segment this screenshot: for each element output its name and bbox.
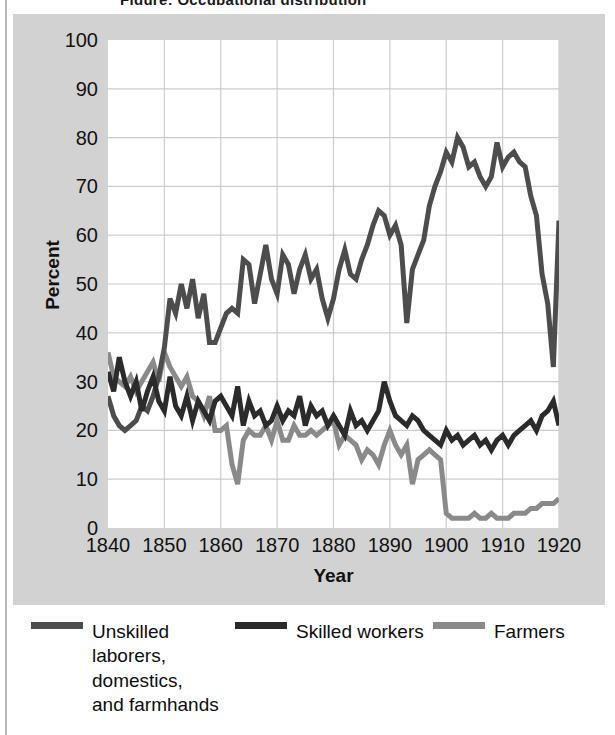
- x-tick-1840: 1840: [78, 535, 138, 555]
- x-axis-label: Year: [108, 565, 559, 587]
- y-tick-70: 70: [46, 176, 98, 196]
- y-tick-10: 10: [46, 469, 98, 489]
- x-tick-1890: 1890: [360, 535, 420, 555]
- x-tick-1880: 1880: [304, 535, 364, 555]
- chart-legend: Unskilled laborers, domestics, and farmh…: [13, 612, 605, 722]
- x-tick-1920: 1920: [529, 535, 589, 555]
- legend-swatch-skilled-icon: [235, 622, 287, 629]
- legend-swatch-farmers-icon: [433, 622, 485, 629]
- plot-area: [108, 40, 559, 528]
- y-tick-20: 20: [46, 420, 98, 440]
- x-tick-1870: 1870: [247, 535, 307, 555]
- legend-label-unskilled: Unskilled laborers, domestics, and farmh…: [92, 620, 219, 717]
- legend-label-skilled: Skilled workers: [296, 620, 424, 644]
- y-tick-80: 80: [46, 128, 98, 148]
- y-axis-label: Percent: [42, 215, 64, 335]
- y-tick-30: 30: [46, 372, 98, 392]
- chart-page: Figure: Occupational distribution 010203…: [0, 0, 615, 735]
- x-tick-1850: 1850: [134, 535, 194, 555]
- plot-svg: [108, 40, 559, 528]
- legend-label-farmers: Farmers: [494, 620, 565, 644]
- legend-item-farmers[interactable]: Farmers: [433, 620, 565, 644]
- legend-item-unskilled[interactable]: Unskilled laborers, domestics, and farmh…: [31, 620, 219, 717]
- x-tick-1900: 1900: [416, 535, 476, 555]
- legend-swatch-unskilled-icon: [31, 622, 83, 629]
- y-tick-100: 100: [46, 30, 98, 50]
- y-tick-90: 90: [46, 79, 98, 99]
- x-tick-1860: 1860: [191, 535, 251, 555]
- chart-title: Figure: Occupational distribution: [120, 0, 520, 5]
- x-tick-1910: 1910: [473, 535, 533, 555]
- legend-item-skilled[interactable]: Skilled workers: [235, 620, 424, 644]
- page-left-rule: [5, 0, 7, 735]
- chart-panel: 0102030405060708090100 Percent 184018501…: [13, 14, 605, 605]
